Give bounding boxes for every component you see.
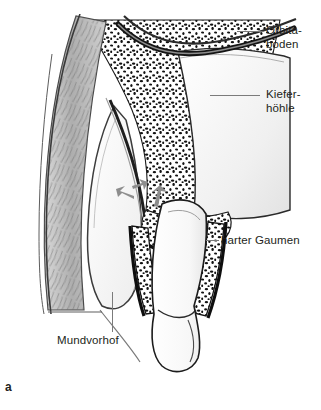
label-kieferhoehle: Kiefer- höhle: [266, 88, 301, 115]
leader-line-harter-gaumen: [206, 240, 219, 241]
maxillary-sinus: [178, 49, 290, 219]
label-orbitaboden: Orbita- boden: [266, 24, 302, 51]
leader-line-mundvorhof: [112, 292, 113, 332]
figure-letter: a: [5, 380, 12, 394]
tooth: [152, 200, 206, 372]
leader-line-orbitaboden: [237, 31, 263, 32]
label-mundvorhof: Mundvorhof: [57, 334, 119, 348]
figure-root: Orbita- boden Kiefer- höhle harter Gaume…: [0, 0, 321, 410]
anatomical-illustration: [22, 14, 303, 383]
leader-line-kieferhoehle: [210, 95, 260, 96]
label-harter-gaumen: harter Gaumen: [221, 234, 300, 248]
